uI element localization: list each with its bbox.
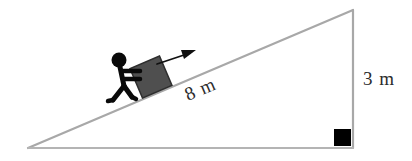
vertical-side-label: 3 m bbox=[363, 68, 395, 89]
diagram-canvas: 8 m 3 m bbox=[0, 0, 412, 161]
right-angle-marker-icon bbox=[334, 129, 351, 146]
stick-figure-front-foot bbox=[132, 97, 136, 99]
stick-figure-back-foot bbox=[108, 100, 113, 101]
inclined-plane-diagram: 8 m 3 m bbox=[0, 0, 412, 161]
